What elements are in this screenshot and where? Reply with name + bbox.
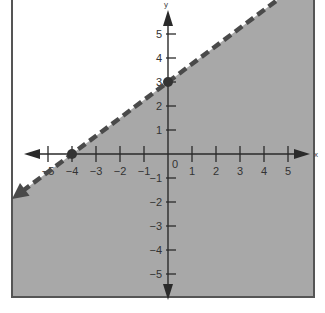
y-tick-label: −3 [149,220,162,232]
x-tick-label: −3 [90,165,103,177]
x-tick-label: −4 [66,165,79,177]
intercept-point [67,149,77,159]
x-tick-label: −2 [114,165,127,177]
y-tick-label: 2 [156,100,162,112]
y-tick-label: −4 [149,244,162,256]
x-tick-label: 2 [213,165,219,177]
y-tick-label: 4 [156,52,162,64]
origin-label: 0 [172,158,178,170]
x-tick-label: 1 [189,165,195,177]
x-tick-label: 5 [285,165,291,177]
x-tick-label: 4 [261,165,267,177]
y-tick-label: 1 [156,124,162,136]
inequality-graph: x y −5−4−3−2−112345−5−4−3−2−112345 0 [0,0,325,313]
y-tick-label: −2 [149,196,162,208]
x-tick-label: 3 [237,165,243,177]
x-axis-label: x [314,150,318,159]
y-tick-label: −5 [149,268,162,280]
y-tick-label: 5 [156,28,162,40]
x-tick-label: −1 [138,165,151,177]
y-axis-label: y [164,0,168,9]
intercept-point [163,77,173,87]
y-tick-label: −1 [149,172,162,184]
